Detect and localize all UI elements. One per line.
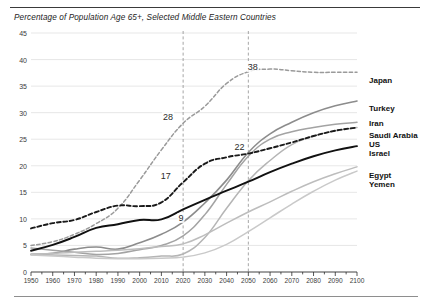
- data-callout: 22: [234, 142, 246, 152]
- y-axis-tick-label: 35: [19, 83, 27, 90]
- top-rule: [10, 7, 420, 8]
- series-line-egypt: [31, 167, 357, 254]
- data-callout: 28: [162, 112, 174, 122]
- x-axis-tick-label: 2040: [219, 277, 234, 284]
- legend-label-israel: Israel: [369, 150, 390, 158]
- x-axis-tick-label: 2080: [306, 277, 321, 284]
- x-axis-tick-label: 1980: [89, 277, 104, 284]
- page-title: Percentage of Population Age 65+, Select…: [14, 13, 276, 22]
- x-axis-tick-label: 1950: [24, 277, 39, 284]
- series-line-turkey: [31, 101, 357, 254]
- legend-label-turkey: Turkey: [369, 105, 395, 113]
- plot-area: 0510152025303540451950196019701980199020…: [31, 33, 357, 272]
- x-axis-tick-label: 2070: [284, 277, 299, 284]
- chart-page: Percentage of Population Age 65+, Select…: [0, 0, 430, 305]
- series-line-israel: [31, 146, 357, 251]
- x-axis-tick-label: 2060: [263, 277, 278, 284]
- legend-label-japan: Japan: [369, 77, 392, 85]
- y-axis-tick-label: 10: [19, 215, 27, 222]
- x-axis-tick-label: 1990: [111, 277, 126, 284]
- data-callout: 38: [247, 62, 259, 72]
- x-axis-tick-label: 1960: [45, 277, 60, 284]
- x-axis-tick-label: 2010: [154, 277, 169, 284]
- y-axis-tick-label: 30: [19, 109, 27, 116]
- x-axis-tick-label: 2030: [198, 277, 213, 284]
- series-layer: [31, 69, 357, 259]
- x-axis-tick-label: 2020: [176, 277, 191, 284]
- y-axis-tick-label: 5: [23, 242, 27, 249]
- data-callout: 9: [177, 213, 184, 223]
- y-axis-tick-label: 15: [19, 189, 27, 196]
- x-axis-tick-label: 2090: [328, 277, 343, 284]
- bottom-rule: [14, 296, 418, 297]
- x-axis-tick-label: 2000: [132, 277, 147, 284]
- y-axis-tick-label: 25: [19, 136, 27, 143]
- plot-svg: [31, 33, 357, 272]
- legend-label-yemen: Yemen: [369, 181, 395, 189]
- x-axis: [31, 272, 357, 276]
- x-axis-tick-label: 1970: [67, 277, 82, 284]
- y-axis-tick-label: 40: [19, 56, 27, 63]
- y-axis-tick-label: 0: [23, 269, 27, 276]
- y-axis-tick-label: 20: [19, 162, 27, 169]
- legend-label-iran: Iran: [369, 120, 384, 128]
- data-callout: 17: [160, 171, 172, 181]
- x-axis-tick-label: 2050: [241, 277, 256, 284]
- series-line-saudi-arabia: [31, 128, 357, 259]
- y-axis-tick-label: 45: [19, 30, 27, 37]
- x-axis-tick-label: 2100: [350, 277, 365, 284]
